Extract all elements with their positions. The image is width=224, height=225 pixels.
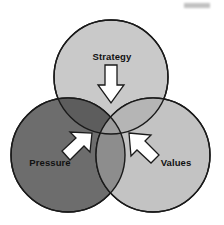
venn-diagram-svg: Strategy Pressure Values	[0, 0, 224, 225]
label-values: Values	[161, 157, 192, 168]
corner-artifact	[184, 3, 210, 8]
label-pressure: Pressure	[29, 157, 70, 168]
label-strategy: Strategy	[93, 51, 132, 62]
venn-diagram-canvas: Strategy Pressure Values	[0, 0, 224, 225]
